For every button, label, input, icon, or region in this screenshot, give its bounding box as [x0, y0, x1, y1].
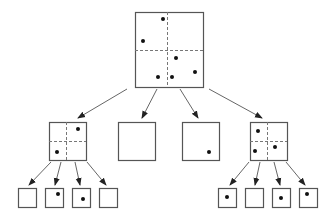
data-point-dot	[207, 150, 211, 154]
node-box	[246, 189, 264, 208]
data-point-dot	[279, 196, 283, 200]
tree-edge-arrow	[274, 162, 280, 185]
data-point-dot	[76, 127, 80, 131]
data-point-dot	[161, 17, 165, 21]
tree-edge-arrow	[78, 89, 127, 118]
data-point-dot	[174, 56, 178, 60]
quadtree-node-nw-nw	[19, 189, 37, 208]
data-point-dot	[193, 70, 197, 74]
quadtree-node-root	[135, 12, 204, 88]
quadtree-node-ne	[119, 123, 156, 161]
data-point-dot	[56, 192, 60, 196]
tree-edge-arrow	[209, 89, 262, 118]
data-point-dot	[156, 75, 160, 79]
data-point-dot	[141, 39, 145, 43]
node-box	[19, 189, 37, 208]
tree-edge-arrow	[142, 89, 157, 118]
quadtree-node-se-sw	[273, 189, 291, 208]
nodes	[19, 12, 318, 208]
quadtree-node-nw-sw	[73, 189, 91, 208]
data-point-dot	[170, 75, 174, 79]
quadtree-node-se-se	[300, 189, 318, 208]
quadtree-node-se	[250, 122, 288, 161]
tree-edge-arrow	[255, 162, 260, 185]
data-point-dot	[55, 150, 59, 154]
data-point-dot	[273, 145, 277, 149]
node-box	[119, 123, 156, 161]
node-box	[46, 189, 64, 208]
tree-edge-arrow	[286, 162, 305, 185]
node-box	[300, 189, 318, 208]
quadtree-node-nw-se	[100, 189, 118, 208]
tree-edge-arrow	[180, 89, 198, 118]
tree-edge-arrow	[87, 162, 106, 185]
data-point-dot	[305, 192, 309, 196]
quadtree-node-se-ne	[246, 189, 264, 208]
quadtree-node-nw-ne	[46, 189, 64, 208]
quadtree-svg	[0, 0, 330, 221]
data-point-dot	[81, 197, 85, 201]
node-box	[100, 189, 118, 208]
quadtree-node-sw	[183, 123, 220, 161]
tree-edge-arrow	[230, 162, 249, 185]
tree-edge-arrow	[75, 162, 80, 185]
node-box	[183, 123, 220, 161]
data-point-dot	[225, 195, 229, 199]
quadtree-node-nw	[49, 122, 87, 161]
tree-edge-arrow	[29, 162, 51, 185]
tree-edge-arrow	[55, 162, 61, 185]
quadtree-node-se-nw	[219, 189, 237, 208]
data-point-dot	[253, 149, 257, 153]
quadtree-diagram	[0, 0, 330, 221]
data-point-dot	[256, 129, 260, 133]
